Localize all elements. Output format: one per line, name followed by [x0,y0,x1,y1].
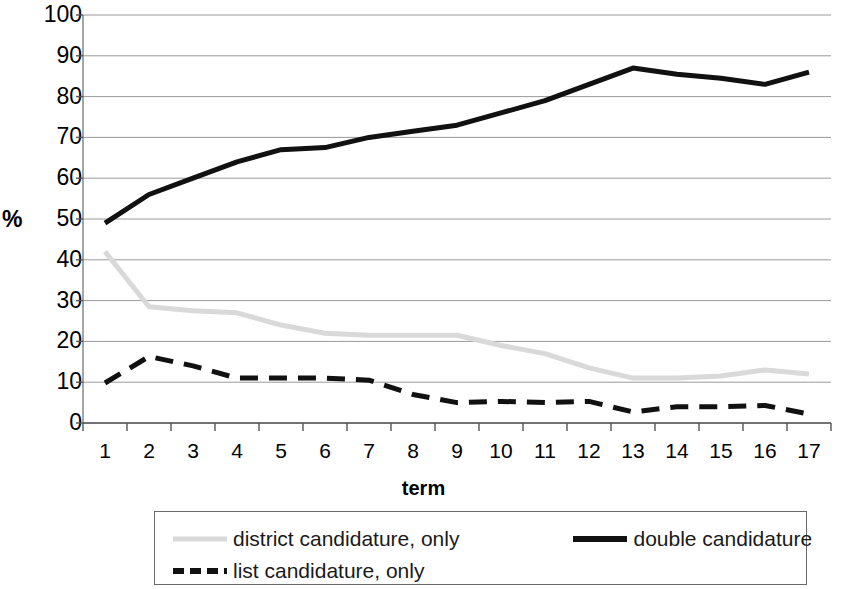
plot-area [0,0,847,450]
legend-swatch-double-candidature-icon [571,529,629,549]
legend-swatch-district-candidature-icon [171,529,229,549]
legend-label-district-candidature: district candidature, only [233,527,459,551]
legend-row-1: district candidature, only double candid… [171,524,812,554]
line-chart: % 0102030405060708090100 123456789101112… [0,0,847,589]
series-line-0 [105,252,809,378]
legend-item-list-candidature[interactable]: list candidature, only [171,559,424,583]
legend-item-double-candidature[interactable]: double candidature [571,527,812,551]
legend-swatch-list-candidature-icon [171,561,229,581]
legend-row-2: list candidature, only [171,556,424,586]
legend-label-double-candidature: double candidature [633,527,812,551]
series-line-1 [105,68,809,223]
legend-item-district-candidature[interactable]: district candidature, only [171,527,459,551]
series-line-2 [105,356,809,414]
legend: district candidature, only double candid… [154,511,807,585]
legend-label-list-candidature: list candidature, only [233,559,424,583]
x-axis-title: term [0,477,847,500]
